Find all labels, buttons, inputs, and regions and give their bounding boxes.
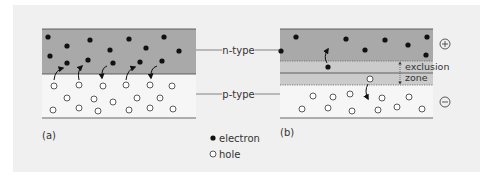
n-type-label: n-type	[222, 45, 254, 56]
minus-terminal-icon	[440, 97, 450, 107]
panel-b-label: (b)	[280, 127, 294, 138]
pn-junction-diagram: n-type p-type exclusion zone (a) (b) ele…	[0, 0, 493, 180]
hole-legend-icon	[210, 151, 216, 157]
electron-legend-icon	[210, 135, 215, 140]
n-type-region-a	[42, 29, 196, 74]
plus-terminal-icon	[440, 39, 450, 49]
legend-hole-label: hole	[219, 149, 240, 160]
legend: electron hole	[210, 133, 260, 160]
legend-electron-label: electron	[219, 133, 260, 144]
exclusion-label: exclusion	[405, 61, 449, 72]
panel-a	[42, 29, 196, 118]
zone-label: zone	[405, 72, 428, 83]
panel-a-label: (a)	[42, 130, 56, 141]
p-type-label: p-type	[222, 89, 254, 100]
p-type-region-b	[280, 85, 433, 118]
